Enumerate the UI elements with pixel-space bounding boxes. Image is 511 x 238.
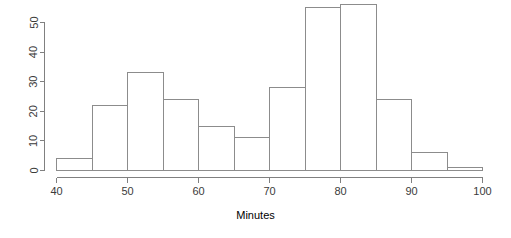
x-tick-label: 60 [192,185,204,197]
x-tick-label: 40 [50,185,62,197]
histogram-bar [447,168,483,171]
x-axis-title-text: Minutes [236,209,275,221]
y-tick-label: 30 [28,76,40,88]
x-tick-label: 80 [334,185,346,197]
x-tick-label: 70 [263,185,275,197]
histogram-bar [163,99,199,170]
y-tick-label: 50 [28,16,40,28]
y-tick-labels: 01020304050 [28,16,40,173]
x-tick-labels: 405060708090100 [50,185,491,197]
histogram-bar [412,153,448,171]
histogram-bar [341,5,377,171]
x-tick-label: 50 [121,185,133,197]
histogram-bar [92,105,128,170]
y-tick-label: 20 [28,105,40,117]
histogram-figure: 01020304050 405060708090100 Minutes [0,0,511,238]
x-axis-title: Minutes [0,205,511,223]
y-tick-label: 0 [28,167,40,173]
y-tick-label: 40 [28,46,40,58]
x-tick-label: 100 [473,185,491,197]
histogram-bar [376,99,412,170]
y-axis [40,23,45,171]
y-tick-label: 10 [28,135,40,147]
x-tick-label: 90 [405,185,417,197]
histogram-bar [128,73,164,171]
histogram-bar [199,126,235,170]
histogram-bar [57,159,93,171]
histogram-plot: 01020304050 405060708090100 [0,0,511,238]
histogram-bar [234,138,270,171]
histogram-bar [305,8,341,171]
histogram-bar [270,88,306,171]
bars-group [57,5,483,171]
x-axis [57,178,483,183]
